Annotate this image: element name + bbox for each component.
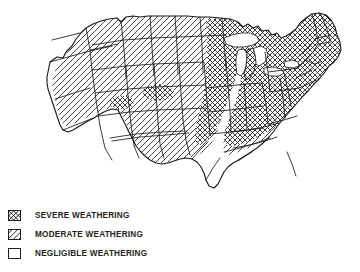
us-weathering-map xyxy=(0,0,360,200)
map-area xyxy=(0,0,360,200)
legend-label-negligible: NEGLIGIBLE WEATHERING xyxy=(35,249,147,258)
legend-item-severe: SEVERE WEATHERING xyxy=(8,206,258,225)
severe-hatch-swatch xyxy=(8,210,21,221)
legend-item-moderate: MODERATE WEATHERING xyxy=(8,225,258,244)
moderate-hatch-swatch xyxy=(8,229,21,240)
legend-item-negligible: NEGLIGIBLE WEATHERING xyxy=(8,244,258,263)
legend-label-moderate: MODERATE WEATHERING xyxy=(35,230,143,239)
weathering-map-figure: SEVERE WEATHERING MODERATE WEATHERING NE… xyxy=(0,0,360,272)
legend-label-severe: SEVERE WEATHERING xyxy=(35,211,130,220)
map-legend: SEVERE WEATHERING MODERATE WEATHERING NE… xyxy=(8,206,258,263)
negligible-blank-swatch xyxy=(8,248,21,259)
